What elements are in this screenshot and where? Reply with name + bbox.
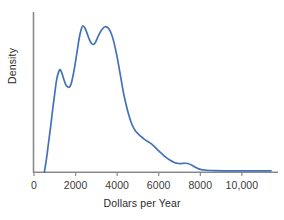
density-chart: 0200040006000800010,000 Dollars per Year… bbox=[0, 0, 284, 220]
x-tick-label: 0 bbox=[31, 179, 37, 191]
density-curve bbox=[44, 26, 271, 172]
y-axis-title: Density bbox=[6, 70, 18, 84]
x-tick-label: 4000 bbox=[105, 179, 129, 191]
x-tick-label: 2000 bbox=[64, 179, 88, 191]
x-axis-title: Dollars per Year bbox=[0, 197, 284, 209]
x-tick-label: 6000 bbox=[147, 179, 171, 191]
x-tick-label: 8000 bbox=[188, 179, 212, 191]
x-tick-label: 10,000 bbox=[226, 179, 259, 191]
y-axis-title-label: Density bbox=[6, 70, 18, 84]
